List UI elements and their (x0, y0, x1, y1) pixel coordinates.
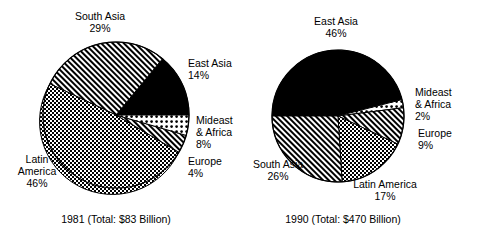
label-1990-mideast-africa-value: 2% (415, 110, 486, 122)
label-1990-latin-america-name: Latin America (330, 178, 440, 190)
label-1990-mideast-africa-line1: Mideast (415, 86, 486, 98)
label-1990-south-asia-value: 26% (240, 170, 316, 182)
label-1981-latin-america-line2: America (2, 165, 72, 177)
label-1981-latin-america: Latin America 46% (2, 153, 72, 190)
label-1981-mideast-africa: Mideast & Africa 8% (196, 114, 270, 151)
label-1990-europe-name: Europe (418, 127, 482, 139)
label-1990-europe: Europe 9% (418, 127, 482, 151)
label-1990-east-asia-value: 46% (288, 27, 384, 39)
label-1981-south-asia-value: 29% (52, 22, 148, 34)
label-1990-mideast-africa: Mideast & Africa 2% (415, 86, 486, 123)
label-1981-mideast-africa-value: 8% (196, 138, 270, 150)
label-1990-east-asia-name: East Asia (288, 15, 384, 27)
label-1990-east-asia: East Asia 46% (288, 15, 384, 39)
label-1981-east-asia-name: East Asia (188, 57, 258, 69)
label-1981-east-asia-value: 14% (188, 69, 258, 81)
label-1990-europe-value: 9% (418, 139, 482, 151)
label-1990-south-asia-name: South Asia (240, 158, 316, 170)
label-1990-latin-america-value: 17% (330, 190, 440, 202)
label-1981-south-asia: South Asia 29% (52, 10, 148, 34)
caption-1981: 1981 (Total: $83 Billion) (36, 213, 196, 225)
label-1990-south-asia: South Asia 26% (240, 158, 316, 182)
label-1981-east-asia: East Asia 14% (188, 57, 258, 81)
label-1981-latin-america-value: 46% (2, 177, 72, 189)
label-1981-mideast-africa-line2: & Africa (196, 126, 270, 138)
label-1981-mideast-africa-line1: Mideast (196, 114, 270, 126)
label-1990-latin-america: Latin America 17% (330, 178, 440, 202)
label-1990-mideast-africa-line2: & Africa (415, 98, 486, 110)
label-1981-latin-america-line1: Latin (2, 153, 72, 165)
pie-chart-figure: South Asia 29% East Asia 14% Mideast & A… (0, 0, 486, 249)
label-1981-south-asia-name: South Asia (52, 10, 148, 22)
caption-1990: 1990 (Total: $470 Billion) (258, 213, 428, 225)
